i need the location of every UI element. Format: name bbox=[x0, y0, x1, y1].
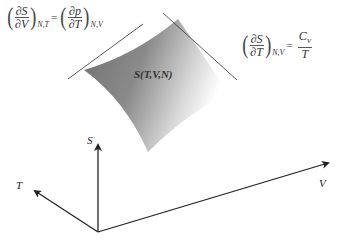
denominator: ∂V bbox=[15, 18, 28, 30]
maxwell-relation-equation: ( ∂S ∂V ) N,T = ( ∂p ∂T ) N,V bbox=[6, 4, 103, 30]
v-subscript: V bbox=[307, 37, 311, 45]
fraction-Cv-T: CV T bbox=[298, 30, 312, 60]
c-symbol: C bbox=[299, 29, 307, 43]
numerator: ∂S bbox=[250, 33, 264, 46]
heat-capacity-equation: ( ∂S ∂T ) N,V = CV T bbox=[241, 30, 312, 60]
denominator: T bbox=[302, 48, 309, 60]
numerator: ∂p bbox=[68, 5, 82, 18]
t-axis-label: T bbox=[16, 179, 22, 191]
denominator: ∂T bbox=[250, 46, 263, 58]
fraction-dS-dV: ∂S ∂V bbox=[15, 5, 29, 30]
numerator: CV bbox=[298, 30, 312, 48]
t-axis bbox=[35, 191, 98, 232]
numerator: ∂S bbox=[15, 5, 29, 18]
subscript: N,V bbox=[91, 20, 103, 29]
equals-sign: = bbox=[51, 11, 57, 23]
subscript: N,V bbox=[272, 48, 284, 57]
right-paren: ) bbox=[265, 32, 271, 58]
v-axis bbox=[98, 163, 328, 232]
denominator: ∂T bbox=[69, 18, 82, 30]
right-paren: ) bbox=[83, 4, 89, 30]
left-paren: ( bbox=[61, 4, 67, 30]
subscript: N,T bbox=[37, 20, 49, 29]
v-axis-label: V bbox=[319, 177, 326, 189]
fraction-dS-dT: ∂S ∂T bbox=[250, 33, 264, 58]
equals-sign: = bbox=[287, 39, 293, 51]
fraction-dp-dT: ∂p ∂T bbox=[68, 5, 82, 30]
left-paren: ( bbox=[7, 4, 13, 30]
right-paren: ) bbox=[30, 4, 36, 30]
s-axis-label: S bbox=[87, 134, 93, 146]
entropy-surface bbox=[84, 19, 228, 152]
left-paren: ( bbox=[242, 32, 248, 58]
surface-label: S(T,V,N) bbox=[134, 68, 173, 80]
